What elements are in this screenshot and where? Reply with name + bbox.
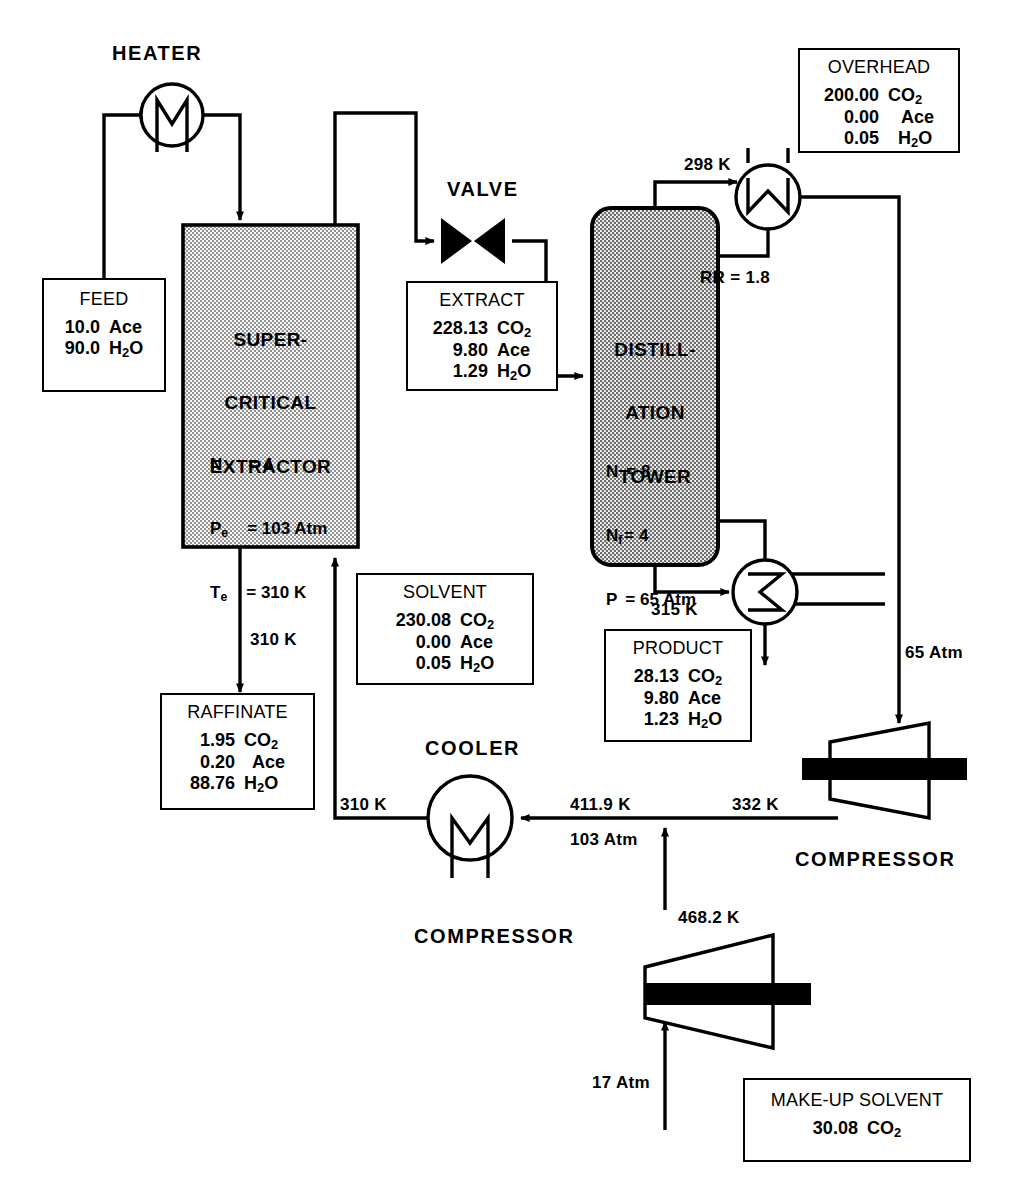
pipe-extractor-to-valve bbox=[335, 113, 434, 241]
extractor-specs: N= 4 Pe= 103 Atm Te= 310 K bbox=[210, 417, 327, 647]
cooler-in-press-label: 103 Atm bbox=[570, 830, 638, 849]
tower-overhead-press-label: 65 Atm bbox=[905, 643, 963, 662]
reboiler-feed-temp-label: 315 K bbox=[651, 600, 698, 619]
condenser-exchanger bbox=[736, 148, 800, 229]
right-compressor-unit bbox=[802, 723, 967, 818]
right-compressor-label: COMPRESSOR bbox=[795, 848, 955, 870]
valve-label: VALVE bbox=[447, 178, 519, 200]
reboiler-exchanger bbox=[733, 560, 797, 624]
solvent-stream-box: SOLVENT 230.08CO2 0.00Ace 0.05H2O bbox=[356, 573, 534, 685]
raffinate-temp-label: 310 K bbox=[250, 630, 297, 649]
compressor-out-temp-label: 468.2 K bbox=[678, 908, 740, 927]
cooler-exchanger bbox=[428, 776, 512, 878]
pipe-distillate-to-turbine bbox=[800, 197, 899, 723]
process-flow-diagram-canvas: HEATER VALVE COOLER COMPRESSOR COMPRESSO… bbox=[0, 0, 1017, 1204]
raffinate-stream-box: RAFFINATE 1.95CO2 0.20Ace 88.76H2O bbox=[160, 693, 315, 810]
condenser-feed-temp-label: 298 K bbox=[684, 155, 731, 174]
bottom-compressor-unit bbox=[645, 935, 811, 1048]
heater-label: HEATER bbox=[112, 42, 202, 64]
cooler-label: COOLER bbox=[425, 737, 520, 759]
tower-specs: N= 8 Nf= 4 P= 65 Atm bbox=[606, 424, 696, 654]
makeup-solvent-stream-box: MAKE-UP SOLVENT 30.08CO2 bbox=[743, 1078, 971, 1162]
cooler-in-temp-label: 411.9 K bbox=[570, 795, 631, 814]
product-stream-box: PRODUCT 28.13CO2 9.80Ace 1.23H2O bbox=[604, 629, 752, 742]
pipe-tower-to-condenser bbox=[655, 182, 737, 208]
feed-stream-box: FEED 10.0Ace 90.0H2O bbox=[42, 278, 166, 392]
bottom-compressor-label: COMPRESSOR bbox=[414, 925, 574, 947]
makeup-press-label: 17 Atm bbox=[592, 1073, 650, 1092]
heater-exchanger bbox=[141, 84, 203, 152]
cooler-out-temp-label: 310 K bbox=[340, 795, 387, 814]
turbine-in-temp-label: 332 K bbox=[732, 795, 779, 814]
throttle-valve bbox=[441, 218, 505, 264]
extract-stream-box: EXTRACT 228.13CO2 9.80Ace 1.29H2O bbox=[406, 281, 558, 391]
reflux-ratio-label: RR = 1.8 bbox=[700, 268, 770, 287]
right-compressor-shaft bbox=[802, 758, 967, 780]
pipe-heater-to-extractor bbox=[196, 115, 240, 220]
overhead-stream-box: OVERHEAD 200.00CO2 0.00Ace 0.05H2O bbox=[798, 48, 960, 153]
bottom-compressor-shaft bbox=[645, 983, 811, 1005]
